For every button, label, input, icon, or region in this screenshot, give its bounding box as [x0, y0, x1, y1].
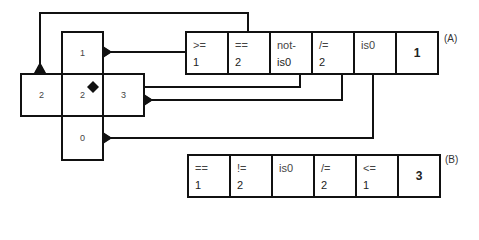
table-a-cell: == 2: [227, 31, 271, 75]
table-b-cell: /= 2: [313, 154, 357, 198]
table-b-cell: == 1: [187, 154, 231, 198]
grid-cell-left: 2: [20, 73, 63, 117]
cell-operator: /=: [319, 37, 353, 54]
cell-operator: is0: [361, 37, 395, 54]
table-a-cell: not- is0: [269, 31, 313, 75]
result-value: 3: [416, 168, 423, 185]
cell-value: 1: [195, 177, 229, 194]
cell-value: 2: [319, 54, 353, 71]
table-a-result: 1: [395, 31, 439, 75]
cell-value: 2: [235, 54, 269, 71]
grid-cell-bottom-value: 0: [80, 133, 85, 143]
grid-cell-center-value: 2: [80, 90, 85, 100]
cell-operator: not-: [277, 37, 311, 54]
cell-value: 1: [363, 177, 397, 194]
result-value: 1: [414, 45, 421, 62]
arrow-up-icon: [34, 62, 46, 73]
table-b-result: 3: [397, 154, 441, 198]
grid-cell-right-value: 3: [121, 90, 126, 100]
table-a-cell: /= 2: [311, 31, 355, 75]
grid-cell-right: 3: [102, 73, 145, 117]
cell-operator: ==: [195, 160, 229, 177]
table-b-cell: <= 1: [355, 154, 399, 198]
table-a-cell: >= 1: [185, 31, 229, 75]
cell-operator: !=: [237, 160, 271, 177]
table-b-label: (B): [445, 154, 458, 165]
grid-cell-center: 2: [61, 73, 104, 117]
table-b-cell: is0: [271, 154, 315, 198]
grid-cell-left-value: 2: [39, 90, 44, 100]
table-b: == 1 != 2 is0 /= 2 <= 1 3: [187, 154, 441, 198]
table-a: >= 1 == 2 not- is0 /= 2 is0 1: [185, 31, 439, 75]
cell-operator: /=: [321, 160, 355, 177]
cell-operator: ==: [235, 37, 269, 54]
cell-operator: <=: [363, 160, 397, 177]
grid-cell-top: 1: [61, 31, 104, 75]
grid-cell-top-value: 1: [80, 48, 85, 58]
cell-value: 1: [193, 54, 227, 71]
table-a-cell: is0: [353, 31, 397, 75]
grid-cell-bottom: 0: [61, 115, 104, 161]
cell-operator: >=: [193, 37, 227, 54]
table-a-label: (A): [444, 33, 457, 44]
cell-value: is0: [277, 54, 311, 71]
cell-operator: is0: [279, 160, 313, 177]
cell-value: 2: [321, 177, 355, 194]
table-b-cell: != 2: [229, 154, 273, 198]
cell-value: 2: [237, 177, 271, 194]
